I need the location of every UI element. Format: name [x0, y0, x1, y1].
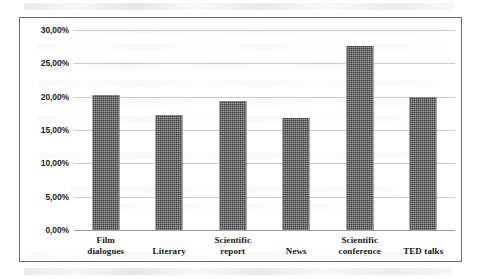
x-axis-tick-label-line: dialogues: [74, 246, 138, 257]
bar[interactable]: [219, 101, 246, 230]
x-axis-tick-label: Scientificconference: [328, 235, 392, 257]
x-axis: FilmdialoguesLiteraryScientificreportNew…: [74, 217, 455, 261]
y-axis-tick-label: 0,00%: [45, 225, 69, 235]
y-axis-tick-label: 5,00%: [45, 192, 69, 202]
chart-container: 0,00%5,00%10,00%15,00%20,00%25,00%30,00%…: [19, 17, 462, 262]
x-axis-tick-label-line: Scientific: [201, 235, 265, 246]
x-axis-tick-label-line: Scientific: [328, 235, 392, 246]
y-axis-tick-label: 15,00%: [41, 125, 69, 135]
y-axis-tick-label: 10,00%: [41, 158, 69, 168]
x-axis-tick-label: Literary: [138, 246, 202, 257]
y-axis-tick-label: 20,00%: [41, 92, 69, 102]
x-axis-tick-label-line: Literary: [138, 246, 202, 257]
bar[interactable]: [283, 118, 310, 230]
x-axis-tick-label: Scientificreport: [201, 235, 265, 257]
x-axis-tick-label-line: report: [201, 246, 265, 257]
y-axis: 0,00%5,00%10,00%15,00%20,00%25,00%30,00%: [20, 18, 74, 261]
x-axis-tick-label-line: News: [265, 246, 329, 257]
x-axis-tick-label: News: [265, 246, 329, 257]
y-axis-tick-label: 30,00%: [41, 25, 69, 35]
bar[interactable]: [156, 115, 183, 230]
x-axis-tick-label: Filmdialogues: [74, 235, 138, 257]
x-axis-tick-label-line: conference: [328, 246, 392, 257]
bar[interactable]: [410, 97, 437, 230]
plot-area: 0,00%5,00%10,00%15,00%20,00%25,00%30,00%…: [20, 18, 461, 261]
bar[interactable]: [346, 46, 373, 230]
y-axis-tick-label: 25,00%: [41, 58, 69, 68]
x-axis-tick-label-line: TED talks: [392, 246, 456, 257]
x-axis-tick-label: TED talks: [392, 246, 456, 257]
bar[interactable]: [92, 95, 119, 230]
x-axis-tick-label-line: Film: [74, 235, 138, 246]
